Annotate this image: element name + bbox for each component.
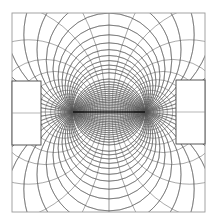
figure-canvas: Bipolar coordinate mesh between two rect… <box>0 0 221 222</box>
bipolar-mesh-diagram <box>0 0 221 222</box>
